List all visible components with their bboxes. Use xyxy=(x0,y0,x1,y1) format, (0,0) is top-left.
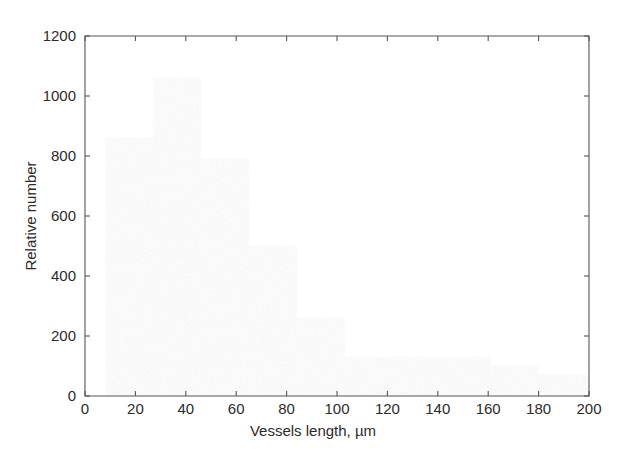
histogram-bar xyxy=(201,159,249,396)
y-tick-label: 0 xyxy=(68,387,76,404)
histogram-bar xyxy=(491,366,539,396)
x-tick-label: 40 xyxy=(177,400,194,417)
histogram-bar xyxy=(443,357,491,396)
x-tick-label: 200 xyxy=(576,400,601,417)
x-tick-label: 20 xyxy=(127,400,144,417)
x-tick-label: 180 xyxy=(526,400,551,417)
histogram-bar xyxy=(392,357,442,396)
y-axis-title: Relative number xyxy=(22,161,39,270)
histogram-bar xyxy=(105,138,153,396)
x-axis-title: Vessels length, µm xyxy=(250,422,376,439)
x-tick-label: 60 xyxy=(228,400,245,417)
x-tick-label: 140 xyxy=(425,400,450,417)
histogram-bar xyxy=(153,78,201,396)
y-tick-label: 400 xyxy=(51,267,76,284)
histogram-chart: 020406080100120140160180200 020040060080… xyxy=(0,0,627,456)
y-tick-label: 1200 xyxy=(43,27,76,44)
figure-container: 020406080100120140160180200 020040060080… xyxy=(0,0,627,456)
x-tick-label: 160 xyxy=(476,400,501,417)
x-tick-label: 80 xyxy=(278,400,295,417)
x-tick-label: 0 xyxy=(81,400,89,417)
y-tick-label: 1000 xyxy=(43,87,76,104)
histogram-bar xyxy=(297,318,345,396)
y-tick-label: 800 xyxy=(51,147,76,164)
histogram-bar xyxy=(345,357,393,396)
y-tick-label: 200 xyxy=(51,327,76,344)
x-tick-label: 100 xyxy=(324,400,349,417)
x-tick-label: 120 xyxy=(375,400,400,417)
y-tick-label: 600 xyxy=(51,207,76,224)
histogram-bar xyxy=(539,375,589,396)
histogram-bar xyxy=(249,246,297,396)
